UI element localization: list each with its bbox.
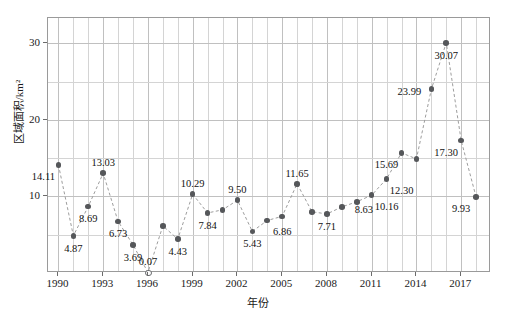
y-tick-label: 20 [22, 113, 40, 125]
y-tick-label: 30 [22, 36, 40, 48]
x-axis-title: 年份 [0, 294, 515, 310]
y-tick-label: 10 [22, 189, 40, 201]
y-tick-labels: 102030 [0, 0, 515, 316]
chart-figure: 区域面积/km² 14.114.878.6913.036.733.690.074… [0, 0, 515, 316]
